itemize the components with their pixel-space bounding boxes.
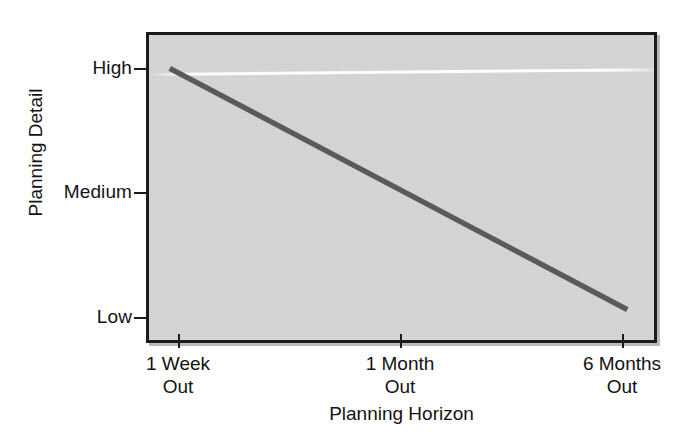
y-tick-label-low: Low <box>97 307 132 326</box>
x-tick-label-6-months-line2: Out <box>542 375 700 398</box>
y-tick-label-medium: Medium <box>64 182 132 201</box>
y-tick-label-high: High <box>93 58 132 77</box>
x-tick-label-1-week-line2: Out <box>98 375 258 398</box>
x-tick-label-1-month: 1 Month Out <box>320 352 480 398</box>
plot-area <box>146 32 657 343</box>
data-line-planning-detail <box>170 68 628 309</box>
x-tick-label-6-months: 6 Months Out <box>542 352 700 398</box>
x-tick-mark-1-month <box>400 334 402 348</box>
x-tick-label-1-week-line1: 1 Week <box>98 352 258 375</box>
x-tick-mark-6-months <box>622 334 624 348</box>
data-series-layer <box>149 35 654 340</box>
x-tick-label-1-month-line1: 1 Month <box>320 352 480 375</box>
chart-figure: High Medium Low 1 Week Out 1 Month Out 6… <box>0 0 700 439</box>
y-axis-title: Planning Detail <box>26 38 45 268</box>
x-tick-label-6-months-line1: 6 Months <box>542 352 700 375</box>
x-tick-mark-1-week <box>178 334 180 348</box>
y-tick-mark-low <box>134 317 148 319</box>
y-tick-mark-high <box>134 68 148 70</box>
y-tick-mark-medium <box>134 192 148 194</box>
x-tick-label-1-month-line2: Out <box>320 375 480 398</box>
x-tick-label-1-week: 1 Week Out <box>98 352 258 398</box>
x-axis-title: Planning Horizon <box>146 404 657 423</box>
